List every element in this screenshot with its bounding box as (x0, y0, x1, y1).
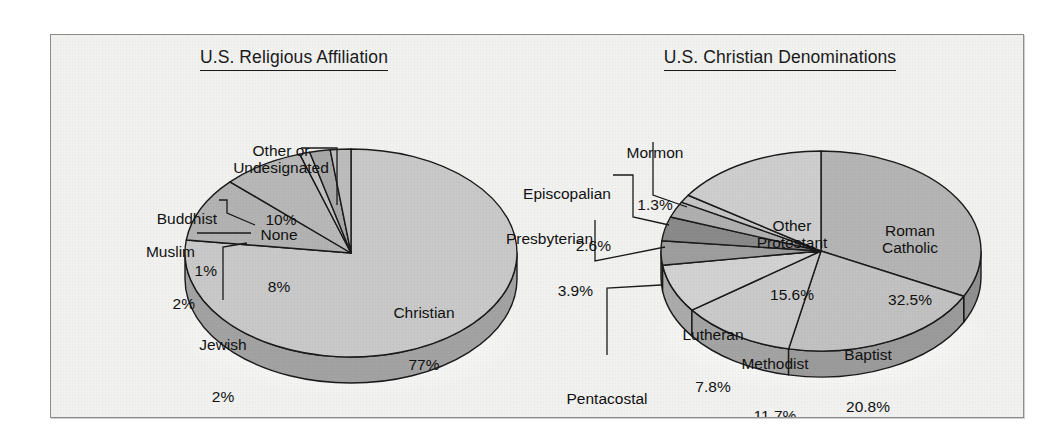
chart-us-christian-denominations: U.S. Christian Denominations (537, 35, 1023, 417)
figure-frame: U.S. Religious Affiliation (50, 34, 1024, 418)
label-mormon: Mormon 1.3% (603, 109, 707, 248)
chart-us-religious-affiliation: U.S. Religious Affiliation (51, 35, 537, 417)
label-presbyterian: Presbyterian 3.9% (479, 195, 593, 334)
label-pentacostal: Pentacostal 3.9% (543, 355, 671, 418)
label-other-protestant: Other Protestant 15.6% (733, 182, 851, 338)
label-roman-catholic: Roman Catholic 32.5% (859, 187, 961, 343)
figure-page: U.S. Religious Affiliation (0, 0, 1064, 437)
label-none: None 8% (239, 191, 319, 330)
label-christian: Christian 77% (369, 269, 479, 408)
